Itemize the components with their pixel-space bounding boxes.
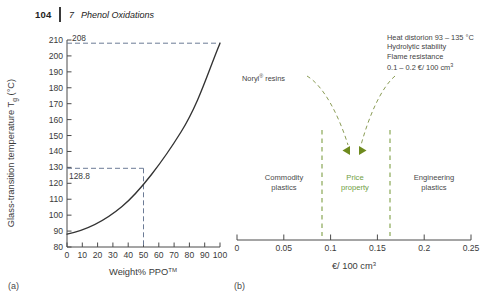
running-head: 104 7 Phenol Oxidations (35, 6, 154, 23)
svg-text:100: 100 (49, 210, 64, 220)
svg-text:90: 90 (53, 226, 63, 236)
zone-price-line1: Price (325, 173, 385, 183)
svg-text:120: 120 (49, 178, 64, 188)
svg-text:Glass-transition temperature T: Glass-transition temperature Tg (°C) (6, 79, 19, 227)
svg-text:0.25: 0.25 (463, 243, 480, 253)
chapter-number: 7 (69, 10, 74, 20)
svg-text:0: 0 (65, 250, 70, 260)
panel-b-callout-leaders (307, 76, 395, 145)
callout-line-4: 0.1 – 0.2 €/ 100 cm3 (387, 61, 474, 73)
svg-text:140: 140 (49, 146, 64, 156)
svg-text:70: 70 (169, 250, 179, 260)
svg-text:50: 50 (139, 250, 149, 260)
panel-a-axes (67, 40, 220, 247)
svg-text:110: 110 (49, 194, 63, 204)
zone-commodity-line1: Commodity (249, 173, 319, 183)
zone-label-price-property: Price property (325, 173, 385, 192)
callout-line-2: Hydrolytic stability (387, 42, 474, 51)
svg-text:40: 40 (123, 250, 133, 260)
running-head-divider (59, 7, 61, 22)
panel-b-x-axis-label: €/ 100 cm3 (332, 261, 377, 271)
zone-price-line2: property (325, 183, 385, 193)
svg-text:80: 80 (185, 250, 195, 260)
zone-engineering-line2: plastics (396, 183, 472, 193)
svg-text:20: 20 (93, 250, 103, 260)
svg-text:100: 100 (213, 250, 228, 260)
svg-text:150: 150 (49, 131, 64, 141)
svg-text:60: 60 (154, 250, 164, 260)
panel-a-x-axis-label: Weight% PPOTM (109, 267, 177, 277)
svg-text:0: 0 (235, 243, 240, 253)
svg-text:180: 180 (49, 83, 64, 93)
panel-b-x-tick-labels: 00.050.1 0.150.20.25 (235, 243, 480, 253)
panel-b-letter: (b) (234, 281, 245, 291)
panel-b-callout-properties: Heat distorion 93 – 135 °C Hydrolytic st… (387, 33, 474, 73)
chapter-title: Phenol Oxidations (81, 10, 154, 20)
zone-engineering-line1: Engineering (396, 173, 472, 183)
panel-a-letter: (a) (8, 281, 19, 291)
zone-label-commodity: Commodity plastics (249, 173, 319, 192)
panel-a-y-ticks (67, 40, 72, 247)
panel-b-arrowheads (343, 146, 367, 155)
panel-b-x-ticks (237, 235, 471, 241)
panel-a-y-axis-label: Glass-transition temperature Tg (°C) (6, 79, 19, 227)
panel-a-marker-128: 128.8 (69, 171, 90, 181)
svg-text:90: 90 (200, 250, 210, 260)
panel-b-callout-noryl: Noryl® resins (242, 72, 285, 84)
panel-a-chart: Glass-transition temperature Tg (°C) 809… (0, 28, 240, 303)
svg-text:30: 30 (108, 250, 118, 260)
svg-text:200: 200 (49, 51, 64, 61)
svg-text:0.1: 0.1 (325, 243, 337, 253)
svg-text:160: 160 (49, 115, 64, 125)
svg-text:190: 190 (49, 67, 64, 77)
panel-a-marker-208: 208 (72, 33, 86, 43)
panel-a-tg-curve (67, 43, 220, 234)
svg-text:0.15: 0.15 (369, 243, 386, 253)
panel-a-y-tick-labels: 8090100 110120130 140150160 170180190 20… (49, 35, 64, 252)
zone-commodity-line2: plastics (249, 183, 319, 193)
svg-text:0.05: 0.05 (275, 243, 292, 253)
svg-text:10: 10 (78, 250, 88, 260)
svg-text:130: 130 (49, 162, 64, 172)
panel-a-x-tick-labels: 01020 304050 607080 90100 (65, 250, 228, 260)
zone-label-engineering: Engineering plastics (396, 173, 472, 192)
svg-text:80: 80 (53, 242, 63, 252)
figure-root: 104 7 Phenol Oxidations Glass-transition… (0, 0, 499, 306)
svg-text:210: 210 (49, 35, 64, 45)
svg-text:170: 170 (49, 99, 64, 109)
page-folio: 104 (35, 9, 51, 20)
callout-line-1: Heat distorion 93 – 135 °C (387, 33, 474, 42)
svg-text:0.2: 0.2 (418, 243, 430, 253)
callout-line-3: Flame resistance (387, 52, 474, 61)
